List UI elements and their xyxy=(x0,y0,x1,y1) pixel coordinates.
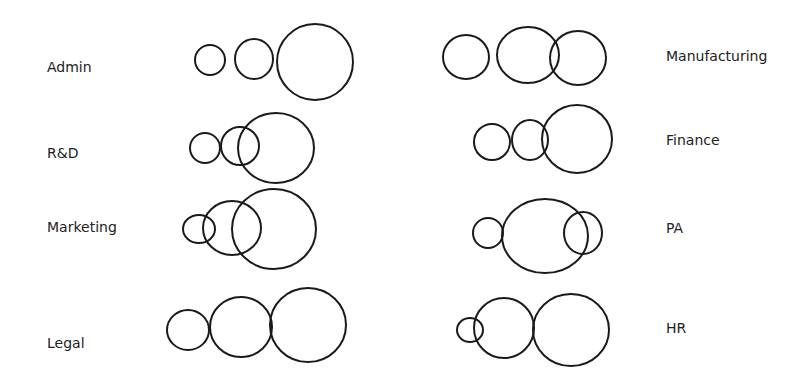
circle-3 xyxy=(270,288,346,362)
department-label: PA xyxy=(666,220,684,236)
department-label: Marketing xyxy=(47,219,117,235)
department-label: Manufacturing xyxy=(666,48,767,64)
circle-3 xyxy=(542,105,612,173)
department-group-hr: HR xyxy=(457,294,687,366)
department-label: Legal xyxy=(47,335,85,351)
circle-1 xyxy=(190,133,220,163)
department-group-pa: PA xyxy=(473,199,684,273)
circle-1 xyxy=(195,45,225,75)
circle-1 xyxy=(183,215,215,243)
department-group-marketing: Marketing xyxy=(47,189,316,269)
circle-1 xyxy=(167,310,209,350)
department-label: Admin xyxy=(47,59,92,75)
department-group-manufacturing: Manufacturing xyxy=(443,27,767,85)
circle-2 xyxy=(235,39,273,79)
circle-3 xyxy=(238,113,314,183)
department-label: HR xyxy=(666,320,687,336)
circle-3 xyxy=(533,294,609,366)
department-group-r-d: R&D xyxy=(47,113,314,183)
department-group-finance: Finance xyxy=(474,105,720,173)
circle-3 xyxy=(277,24,353,100)
department-group-admin: Admin xyxy=(47,24,353,100)
circle-3 xyxy=(232,189,316,269)
department-group-legal: Legal xyxy=(47,288,346,362)
circle-1 xyxy=(474,124,510,160)
circle-1 xyxy=(443,35,489,79)
department-label: R&D xyxy=(47,145,78,161)
circle-1 xyxy=(473,218,503,248)
circle-2 xyxy=(210,297,272,357)
department-label: Finance xyxy=(666,132,720,148)
circle-2 xyxy=(502,199,588,273)
circle-1 xyxy=(457,318,483,342)
department-circles-diagram: AdminR&DMarketingLegalManufacturingFinan… xyxy=(0,0,810,388)
